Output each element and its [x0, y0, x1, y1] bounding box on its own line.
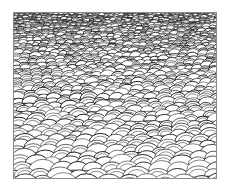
- scale-pattern-illustration: [14, 13, 217, 179]
- scale-texture-frame: [13, 12, 217, 179]
